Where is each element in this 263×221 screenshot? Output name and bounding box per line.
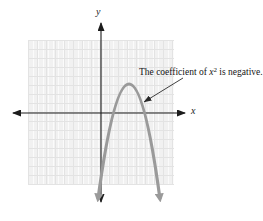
annotation-arrow [144, 78, 183, 102]
plot-canvas [0, 0, 263, 221]
parabola-figure: y x The coefficient of x2 is negative. [0, 0, 263, 221]
annotation-suffix: is negative. [217, 67, 263, 77]
annotation-text: The coefficient of x2 is negative. [139, 67, 261, 78]
annotation-prefix: The coefficient of [139, 67, 209, 77]
y-axis-label: y [96, 7, 100, 17]
annotation-exponent: 2 [213, 66, 217, 74]
parabola-curve [98, 84, 160, 199]
x-axis-label: x [191, 106, 195, 116]
